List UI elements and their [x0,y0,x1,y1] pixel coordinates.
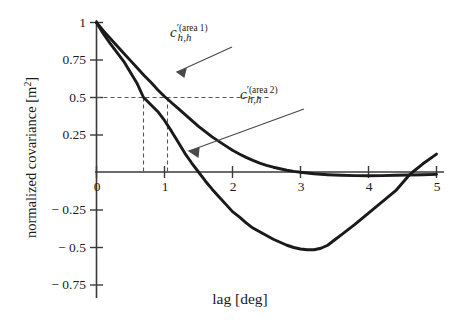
curve-label-area-2-subscript: h,h [248,93,262,105]
curve-label-area-1-base: c [170,24,177,40]
ytick-label-0.25: 0.25 [36,128,86,142]
xtick-label-2: 2 [220,180,246,194]
xtick-label-0: 0 [84,180,110,194]
curve-area-1 [97,23,437,176]
y-axis-title-tail: ] [23,77,39,82]
area-1-leader-line [177,47,232,72]
curve-label-area-1-subscript: h,h [178,31,192,43]
curve-label-area-1: c′(area 1)h,h [170,22,192,43]
x-axis-title: lag [deg] [150,290,330,308]
xtick-label-4: 4 [356,180,382,194]
area-2-leader-arrowhead [189,148,199,157]
y-axis-title: normalized covariance [m2] [22,32,41,282]
ytick-label-0.5: 0.5 [38,91,86,105]
dashed-guide-lines [97,98,270,173]
ytick-label-1: 1 [48,16,86,30]
ytick-label-0.75: 0.75 [36,53,86,67]
y-axis-title-superscript: 2 [22,82,33,87]
covariance-chart-figure: 1 0.75 0.5 0.25 − 0.25 − 0.5 − 0.75 0 1 … [0,0,463,331]
xtick-label-1: 1 [152,180,178,194]
area-1-leader-arrowhead [177,69,186,77]
area-2-leader-line [189,109,304,151]
curve-label-area-2: c′(area 2)h,h [240,84,262,105]
xtick-label-5: 5 [424,180,450,194]
y-axis-title-text: normalized covariance [m [23,87,39,238]
curve-label-area-2-base: c [240,86,247,102]
curve-area-2 [97,23,437,250]
xtick-label-3: 3 [288,180,314,194]
